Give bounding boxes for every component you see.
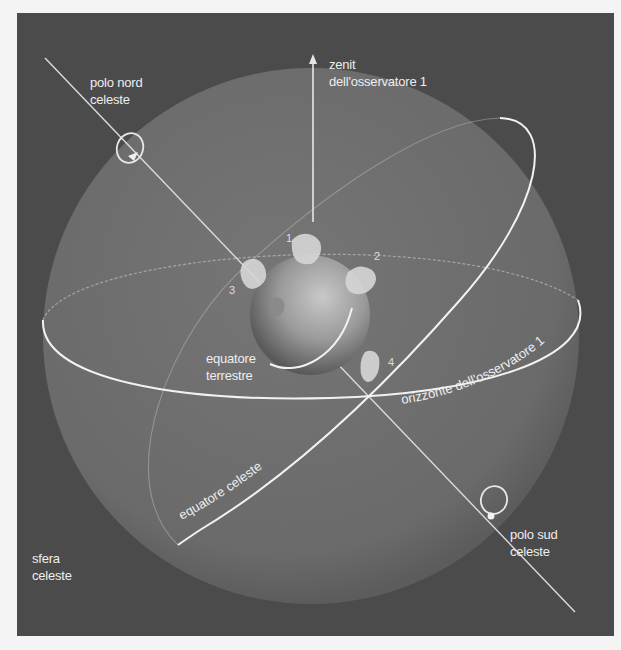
sphere-label: sfera celeste	[32, 550, 72, 584]
zenith-label: zenit dell'osservatore 1	[329, 56, 427, 90]
south-pole-label-line2: celeste	[510, 543, 558, 560]
south-pole-label-line1: polo sud	[510, 526, 558, 543]
north-pole-label-line2: celeste	[90, 91, 142, 108]
zenith-label-line1: zenit	[329, 56, 427, 73]
earth-equator-label: equatore terrestre	[206, 350, 256, 384]
earth-equator-label-line2: terrestre	[206, 367, 256, 384]
earth-equator-label-line1: equatore	[206, 350, 256, 367]
zenith-label-line2: dell'osservatore 1	[329, 73, 427, 90]
observer-1-label: 1	[286, 232, 292, 244]
zenith-arrowhead	[309, 54, 317, 64]
observer-4-label: 4	[388, 356, 394, 368]
south-pole-dot	[488, 513, 495, 520]
north-pole-label-line1: polo nord	[90, 74, 142, 91]
north-pole-label: polo nord celeste	[90, 74, 142, 108]
south-pole-label: polo sud celeste	[510, 526, 558, 560]
observer-3-label: 3	[229, 284, 235, 296]
sphere-label-line1: sfera	[32, 550, 72, 567]
observer-2-label: 2	[374, 250, 380, 262]
sphere-label-line2: celeste	[32, 567, 72, 584]
